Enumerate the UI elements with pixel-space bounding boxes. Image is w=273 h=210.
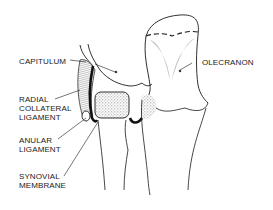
leader-olecranon bbox=[180, 63, 192, 70]
label-radial-collateral-ligament: RADIAL COLLATERAL LIGAMENT bbox=[19, 95, 71, 122]
ulna-olecranon bbox=[145, 15, 208, 103]
anular-ligament-shape bbox=[82, 111, 90, 121]
radial-head bbox=[95, 92, 129, 118]
label-olecranon: OLECRANON bbox=[202, 58, 254, 67]
label-capitulum: CAPITULUM bbox=[19, 57, 66, 66]
label-anular-ligament: ANULAR LIGAMENT bbox=[19, 136, 61, 154]
ulna-coronoid-stipple bbox=[141, 95, 157, 119]
leader-synovial bbox=[64, 122, 98, 176]
radius-shaft bbox=[98, 120, 128, 190]
leader-capitulum-2 bbox=[95, 64, 115, 72]
ulna-notch-cartilage bbox=[130, 118, 142, 123]
label-synovial-membrane: SYNOVIAL MEMBRANE bbox=[19, 172, 66, 190]
olecranon-shading bbox=[150, 38, 195, 80]
